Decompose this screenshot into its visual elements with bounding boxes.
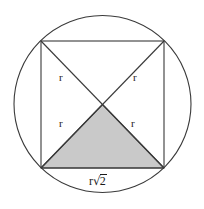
shaded-triangle-region: [41, 105, 164, 169]
radius-label-top-left: r: [59, 72, 63, 83]
side-length-label: r√2: [89, 174, 107, 188]
square-root-group: √2: [93, 174, 107, 188]
geometry-diagram: r r r r r√2: [0, 0, 204, 209]
radius-label-bottom-right: r: [131, 118, 135, 129]
radicand-value: 2: [100, 174, 107, 188]
radius-label-bottom-left: r: [59, 118, 63, 129]
radius-label-top-right: r: [133, 72, 137, 83]
